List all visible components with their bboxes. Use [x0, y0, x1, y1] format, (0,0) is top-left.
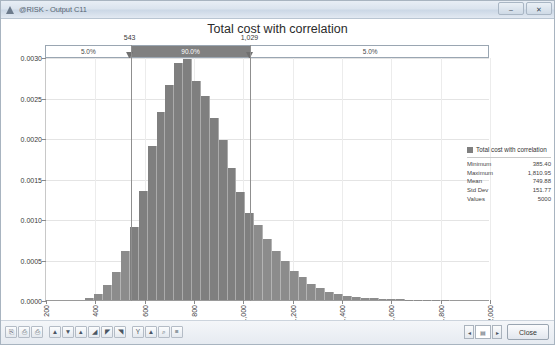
histogram-bar: [157, 112, 166, 300]
x-tick-mark: [490, 300, 491, 304]
histogram-bar: [165, 85, 174, 300]
band-segment-middle: 90.0%: [131, 46, 251, 57]
histogram-bar: [370, 298, 379, 300]
x-tick-label: 400: [92, 305, 99, 317]
stat-key: Std Dev: [467, 186, 488, 195]
y-tick-label: 0.0025: [21, 95, 42, 102]
bar-chart-icon[interactable]: ▲: [49, 326, 61, 338]
delimiter-label-right: 1,029: [241, 34, 259, 41]
y-tick-label: 0.0020: [21, 136, 42, 143]
histogram-bar: [148, 146, 157, 300]
summary-icon[interactable]: Υ: [132, 326, 144, 338]
window-title: @RISK - Output C11: [19, 5, 87, 14]
toolbar-separator: [44, 326, 48, 338]
print-icon[interactable]: ⎙: [31, 326, 43, 338]
histogram-bar: [290, 271, 299, 300]
stat-row: Maximum1,810.95: [467, 169, 551, 178]
stat-value: 1,810.95: [528, 169, 551, 178]
histogram-bar: [325, 292, 334, 300]
scatter-icon-glyph: ◤: [105, 329, 110, 336]
histogram-bar: [219, 140, 228, 300]
histogram-bar: [281, 261, 290, 300]
zoom-icon-glyph: ⌕: [162, 329, 166, 336]
legend-swatch-icon: [467, 147, 473, 153]
area-chart-icon[interactable]: ◢: [88, 326, 100, 338]
zoom-icon[interactable]: ⌕: [158, 326, 170, 338]
line-chart-icon[interactable]: ◥: [114, 326, 126, 338]
settings-icon-glyph: ≡: [175, 329, 179, 336]
y-tick-label: 0.0030: [21, 55, 42, 62]
histogram-bar: [112, 272, 121, 300]
stat-row: Values5000: [467, 195, 551, 204]
histogram-bar: [174, 63, 183, 300]
cumulative-ascending-icon[interactable]: ▴: [75, 326, 87, 338]
nav-page-indicator[interactable]: ▤: [475, 325, 491, 339]
stat-key: Minimum: [467, 160, 491, 169]
x-tick-mark: [46, 300, 47, 304]
delimiter-line-right[interactable]: [250, 45, 251, 301]
y-tick-mark: [42, 139, 46, 140]
close-button[interactable]: Close: [507, 324, 549, 340]
minimize-button[interactable]: –: [498, 2, 524, 15]
histogram-bar: [121, 251, 130, 300]
x-tick-mark: [194, 300, 195, 304]
stat-key: Maximum: [467, 169, 493, 178]
histogram-bar: [103, 285, 112, 300]
close-window-button[interactable]: ✕: [526, 2, 552, 15]
legend-stats-panel: Total cost with correlation Minimum385.4…: [467, 146, 551, 203]
area-chart-icon-glyph: ◢: [92, 329, 97, 336]
legend-entry: Total cost with correlation: [467, 146, 551, 157]
window-titlebar: @RISK - Output C11 – ✕: [1, 1, 554, 19]
minimize-icon: –: [509, 5, 513, 12]
y-tick-mark: [42, 261, 46, 262]
x-tick-mark: [243, 300, 244, 304]
y-tick-mark: [42, 220, 46, 221]
y-tick-mark: [42, 58, 46, 59]
bottom-toolbar: ⎘⎙⎙▲▼▴◢◤◥Υ▲⌕≡ ◂ ▤ ▸ Close: [1, 320, 554, 344]
y-tick-mark: [42, 99, 46, 100]
risk-output-window: @RISK - Output C11 – ✕ Total cost with c…: [0, 0, 555, 345]
cumulative-descending-icon[interactable]: ▼: [62, 326, 74, 338]
nav-prev-button[interactable]: ◂: [464, 325, 474, 339]
close-icon: ✕: [536, 5, 542, 12]
histogram-bar: [272, 251, 281, 300]
x-tick-mark: [95, 300, 96, 304]
stat-value: 385.40: [533, 160, 551, 169]
x-tick-mark: [441, 300, 442, 304]
band-segment-right: 5.0%: [250, 46, 490, 57]
scatter-icon[interactable]: ◤: [101, 326, 113, 338]
chevron-right-icon: ▸: [496, 329, 499, 336]
histogram-bar: [183, 59, 192, 300]
x-tick-mark: [391, 300, 392, 304]
paste-icon[interactable]: ⎙: [18, 326, 30, 338]
nav-next-button[interactable]: ▸: [492, 325, 502, 339]
toolbar-icon-group: ⎘⎙⎙▲▼▴◢◤◥Υ▲⌕≡: [5, 326, 183, 338]
overlay-icon-glyph: ▲: [148, 329, 154, 336]
page-navigator[interactable]: ◂ ▤ ▸: [464, 325, 502, 339]
percentile-band[interactable]: 5.0%90.0%5.0%: [45, 45, 489, 58]
x-tick-label: 800: [191, 305, 198, 317]
histogram-bar: [316, 288, 325, 300]
delimiter-line-left[interactable]: [131, 45, 132, 301]
stat-key: Mean: [467, 177, 482, 186]
overlay-icon[interactable]: ▲: [145, 326, 157, 338]
histogram-bar: [361, 298, 370, 300]
stat-value: 749.88: [533, 177, 551, 186]
x-tick-label: 600: [141, 305, 148, 317]
histogram-bar: [254, 225, 263, 300]
histogram-bar: [192, 81, 201, 300]
histogram-bar: [352, 297, 361, 300]
settings-icon[interactable]: ≡: [171, 326, 183, 338]
bar-chart-icon-glyph: ▲: [52, 329, 58, 336]
histogram-bar: [139, 191, 148, 300]
histogram-bar: [236, 192, 245, 300]
page-icon: ▤: [480, 329, 486, 336]
line-chart-icon-glyph: ◥: [118, 329, 123, 336]
x-tick-mark: [342, 300, 343, 304]
copy-icon[interactable]: ⎘: [5, 326, 17, 338]
y-tick-label: 0.0000: [21, 298, 42, 305]
histogram-bar: [307, 284, 316, 300]
toolbar-separator: [127, 326, 131, 338]
chevron-left-icon: ◂: [468, 329, 471, 336]
histogram-bar: [299, 277, 308, 300]
